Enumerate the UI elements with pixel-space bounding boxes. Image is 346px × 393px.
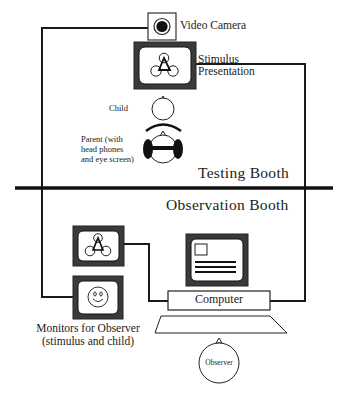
child-label: Child bbox=[109, 104, 128, 113]
computer-label: Computer bbox=[168, 293, 270, 306]
computer-monitor bbox=[186, 234, 248, 286]
stimulus-label-line2: Presentation bbox=[198, 65, 255, 77]
observation-booth-label: Observation Booth bbox=[166, 197, 289, 213]
window-icon bbox=[195, 244, 207, 255]
observer-monitors-label-line2: (stimulus and child) bbox=[18, 335, 158, 347]
parent-label-line1: Parent (with bbox=[81, 135, 123, 144]
eye-screen-icon bbox=[148, 146, 178, 150]
stimulus-monitor bbox=[134, 42, 196, 89]
video-camera bbox=[148, 13, 176, 40]
testing-booth-label: Testing Booth bbox=[198, 165, 289, 181]
parent-label-line3: and eye screen) bbox=[81, 155, 134, 164]
video-camera-label: Video Camera bbox=[180, 19, 246, 31]
child-figure bbox=[152, 96, 174, 120]
observer-child-monitor bbox=[73, 276, 123, 319]
stimulus-label-line1: Stimulus bbox=[198, 53, 239, 65]
keyboard bbox=[155, 316, 287, 333]
observer-monitors-label-line1: Monitors for Observer bbox=[18, 322, 158, 334]
parent-label-line2: head phones bbox=[81, 145, 123, 154]
observer-label: Observer bbox=[199, 359, 239, 367]
observer-stimulus-monitor bbox=[73, 226, 124, 266]
parent-figure bbox=[143, 125, 183, 164]
monitor-cable bbox=[124, 244, 168, 301]
